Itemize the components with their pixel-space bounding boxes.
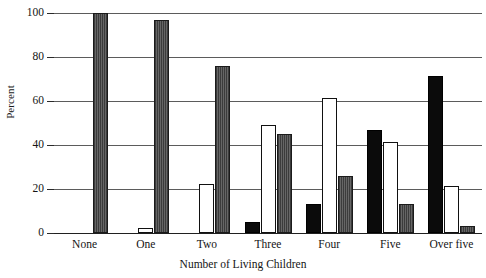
bar: [138, 228, 153, 234]
gridline: [54, 57, 482, 58]
bar: [199, 184, 214, 234]
y-axis-tick-label: 80: [18, 51, 44, 63]
bar: [261, 125, 276, 233]
bar: [93, 13, 108, 233]
bar: [367, 130, 382, 233]
y-axis-tick-mark: [47, 189, 54, 190]
bar: [428, 76, 443, 233]
plot-area: [54, 13, 482, 233]
y-axis-tick-labels: 020406080100: [14, 0, 44, 278]
x-axis-label: Number of Living Children: [0, 258, 486, 270]
bar: [306, 204, 321, 233]
bar: [460, 226, 475, 233]
bar: [383, 142, 398, 233]
bar: [338, 176, 353, 233]
x-axis-tick-label: Over five: [421, 238, 482, 250]
bar-chart: Percent 020406080100 Number of Living Ch…: [0, 0, 486, 278]
x-axis-tick-label: None: [54, 238, 115, 250]
gridline: [54, 101, 482, 102]
x-axis-tick-label: Three: [237, 238, 298, 250]
y-axis-tick-label: 100: [18, 7, 44, 19]
y-axis-tick-label: 20: [18, 183, 44, 195]
bar: [154, 20, 169, 233]
x-axis-tick-label: Five: [360, 238, 421, 250]
bar: [399, 204, 414, 233]
x-axis-tick-label: Two: [176, 238, 237, 250]
bar: [245, 222, 260, 233]
y-axis-tick-mark: [47, 57, 54, 58]
bar: [322, 98, 337, 233]
y-axis-tick-mark: [47, 101, 54, 102]
x-axis-tick-label: Four: [299, 238, 360, 250]
bar: [277, 134, 292, 233]
y-axis-tick-mark: [47, 145, 54, 146]
gridline: [54, 13, 482, 14]
y-axis-tick-label: 40: [18, 139, 44, 151]
y-axis-tick-mark: [47, 233, 54, 234]
y-axis-tick-mark: [47, 13, 54, 14]
bar: [215, 66, 230, 233]
bar: [444, 186, 459, 233]
y-axis-tick-label: 60: [18, 95, 44, 107]
y-axis-tick-label: 0: [18, 227, 44, 239]
x-axis-tick-label: One: [115, 238, 176, 250]
